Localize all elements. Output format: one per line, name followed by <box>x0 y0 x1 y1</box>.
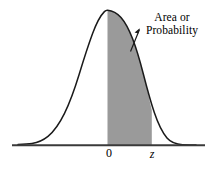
normal-distribution-figure: Area or Probability 0 z <box>0 0 213 171</box>
axis-tick-label-zero: 0 <box>103 147 115 159</box>
callout-line-1: Area or <box>136 11 208 24</box>
axis-tick-label-z: z <box>146 148 158 160</box>
callout-label: Area or Probability <box>136 11 208 36</box>
callout-line-2: Probability <box>136 24 208 37</box>
